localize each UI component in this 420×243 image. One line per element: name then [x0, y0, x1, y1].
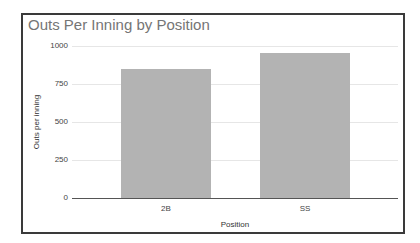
x-axis-label: Position — [0, 220, 420, 229]
bar-ss — [260, 53, 350, 198]
gridline-1000 — [72, 46, 398, 47]
chart-title: Outs Per Inning by Position — [28, 16, 210, 33]
x-axis-baseline — [72, 198, 398, 199]
y-tick-250: 250 — [38, 155, 68, 164]
y-tick-500: 500 — [38, 117, 68, 126]
y-tick-1000: 1000 — [38, 41, 68, 50]
y-tick-0: 0 — [38, 193, 68, 202]
bar-2b — [121, 69, 211, 198]
x-tick-ss: SS — [285, 204, 325, 213]
y-tick-750: 750 — [38, 79, 68, 88]
x-tick-2b: 2B — [146, 204, 186, 213]
